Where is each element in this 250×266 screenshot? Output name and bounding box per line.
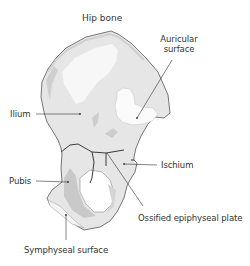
label-auricular-line1: Auricular [158,34,200,44]
hip-bone-illustration [0,0,250,266]
label-ischium: Ischium [161,160,193,170]
figure-title: Hip bone [82,13,122,23]
label-auricular-line2: surface [158,44,200,54]
label-pubis: Pubis [9,176,31,186]
label-ilium: Ilium [10,109,30,119]
label-ossified-epiphyseal-plate: Ossified epiphyseal plate [138,213,242,223]
label-symphyseal-surface: Symphyseal surface [24,245,108,255]
hip-bone-figure: Hip bone Auricular surface Ilium Ischium… [0,0,250,266]
label-auricular-surface: Auricular surface [158,34,200,54]
